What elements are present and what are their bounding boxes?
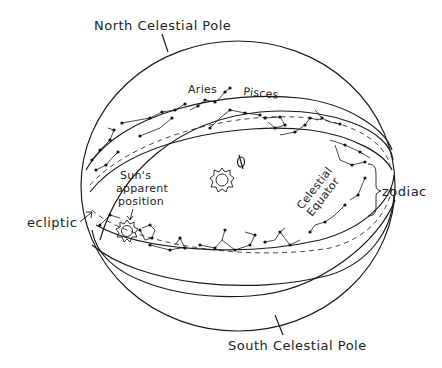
north-pole-label: North Celestial Pole [94,18,231,33]
aries-label: Aries [188,83,217,96]
ecliptic-label: ecliptic [27,215,77,230]
south-pole-label: South Celestial Pole [228,338,367,353]
sun-apparent-icon [116,220,138,242]
sun-position-label-2: apparent [116,182,169,195]
sun-position-label-3: position [118,195,164,208]
earth-icon [238,155,245,169]
celestial-sphere-diagram: North Celestial Pole South Celestial Pol… [0,0,442,368]
sun-position-arrow [127,209,133,220]
sun-icon [210,168,234,192]
north-pole-pointer [162,34,168,52]
zodiac-brace [368,164,381,216]
pisces-label: Pisces [243,85,280,102]
sun-position-label-1: Sun's [120,169,151,182]
zodiac-label: zodiac [382,184,427,199]
